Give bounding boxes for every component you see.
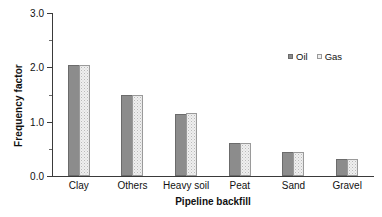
bar-gas-sand[interactable] (293, 152, 304, 176)
bar-group (52, 13, 106, 176)
x-axis-tick-labels: ClayOthersHeavy soilPeatSandGravel (52, 180, 374, 196)
y-tick-label: 1.0 (30, 116, 44, 127)
x-tick-label-sand: Sand (282, 180, 305, 191)
bar-gas-others[interactable] (132, 95, 143, 177)
x-tick-label-peat: Peat (230, 180, 251, 191)
legend-swatch-gas-icon (317, 54, 322, 59)
bar-oil-sand[interactable] (282, 152, 293, 176)
y-axis-title: Frequency factor (13, 36, 24, 176)
x-tick-label-clay: Clay (69, 180, 89, 191)
bar-gas-gravel[interactable] (347, 159, 358, 176)
x-axis-line (52, 176, 374, 177)
bar-oil-clay[interactable] (68, 65, 79, 176)
legend-label-oil: Oil (296, 52, 308, 62)
legend-item-gas[interactable]: Gas (317, 52, 342, 62)
bar-gas-heavy-soil[interactable] (186, 113, 197, 176)
bar-gas-peat[interactable] (240, 143, 251, 176)
bar-groups (52, 13, 374, 176)
plot-area: 0.01.02.03.0 ClayOthersHeavy soilPeatSan… (52, 13, 374, 176)
bar-group (159, 13, 213, 176)
bar-group (213, 13, 267, 176)
bar-oil-others[interactable] (121, 95, 132, 177)
chart-legend: OilGas (288, 52, 342, 62)
bar-oil-peat[interactable] (229, 143, 240, 176)
bar-group (267, 13, 321, 176)
y-tick-label: 3.0 (30, 8, 44, 19)
bar-group (106, 13, 160, 176)
x-tick-label-others: Others (117, 180, 147, 191)
bar-oil-heavy-soil[interactable] (175, 114, 186, 176)
bar-oil-gravel[interactable] (336, 159, 347, 176)
y-tick-label: 2.0 (30, 62, 44, 73)
legend-item-oil[interactable]: Oil (288, 52, 308, 62)
y-tick-major (47, 176, 52, 177)
x-tick-label-gravel: Gravel (332, 180, 361, 191)
y-tick-label: 0.0 (30, 171, 44, 182)
x-axis-title: Pipeline backfill (52, 196, 374, 207)
bar-group (320, 13, 374, 176)
legend-swatch-oil-icon (288, 54, 293, 59)
x-tick-label-heavy-soil: Heavy soil (163, 180, 209, 191)
bar-chart-figure: Frequency factor 0.01.02.03.0 ClayOthers… (0, 0, 382, 217)
legend-label-gas: Gas (325, 52, 342, 62)
bar-gas-clay[interactable] (79, 65, 90, 176)
